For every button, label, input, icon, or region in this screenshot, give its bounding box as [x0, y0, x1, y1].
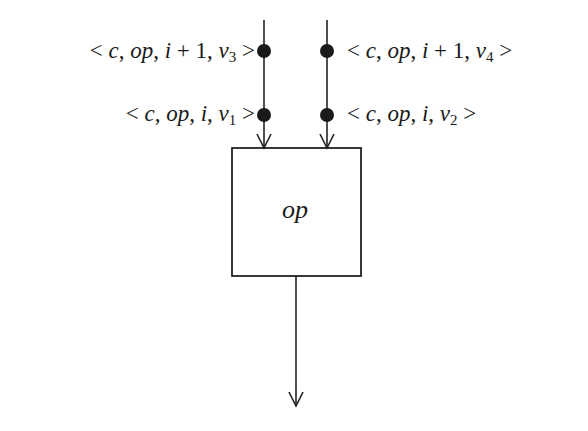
right-token-top — [320, 44, 334, 58]
token-label-left-top: < c, op, i + 1, v3 > — [90, 39, 255, 65]
token-label-right-top: < c, op, i + 1, v4 > — [347, 39, 512, 65]
right-token-bottom — [320, 108, 334, 122]
operator-label: op — [282, 195, 308, 225]
token-label-right-bottom: < c, op, i, v2 > — [347, 102, 476, 128]
left-token-top — [257, 44, 271, 58]
token-label-left-bottom: < c, op, i, v1 > — [126, 102, 255, 128]
left-token-bottom — [257, 108, 271, 122]
